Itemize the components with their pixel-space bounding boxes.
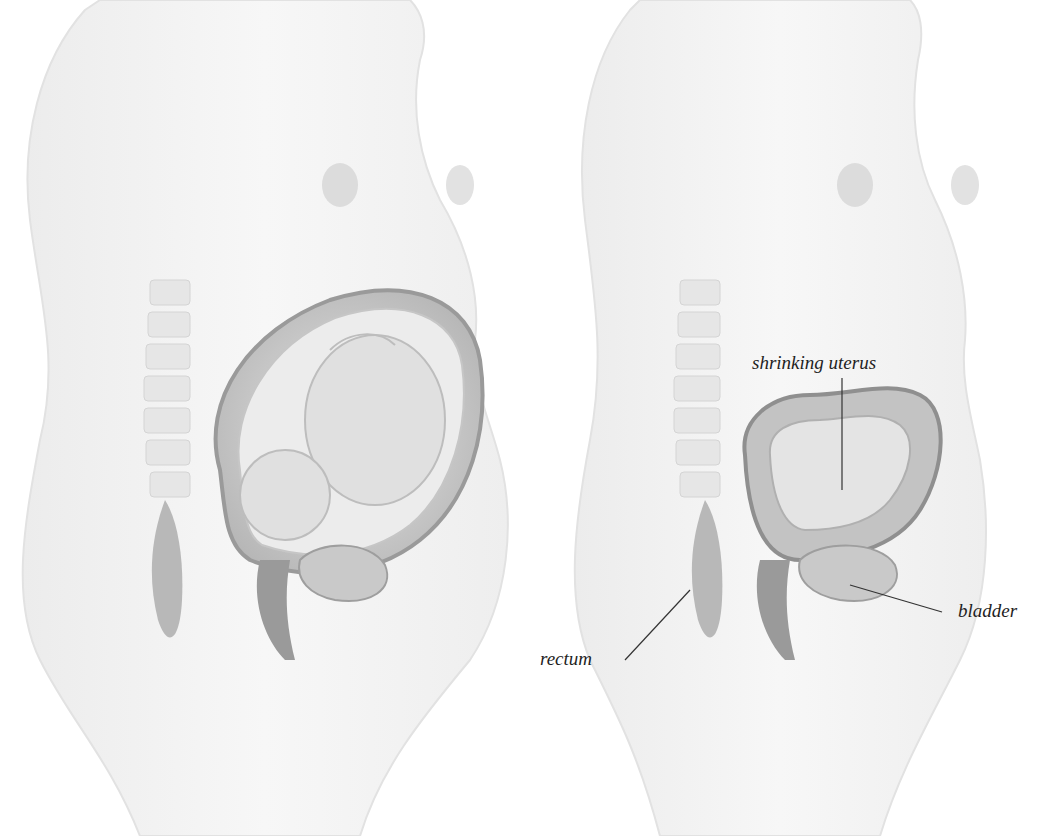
right-torso [575,0,986,836]
breast-right [837,163,873,207]
spine-left [144,280,190,497]
label-shrinking-uterus: shrinking uterus [752,352,876,374]
left-torso [23,0,508,836]
breast-left [322,163,358,207]
anatomy-illustration [0,0,1041,836]
label-bladder: bladder [958,600,1017,622]
spine-right [674,280,720,497]
label-rectum: rectum [540,648,592,670]
